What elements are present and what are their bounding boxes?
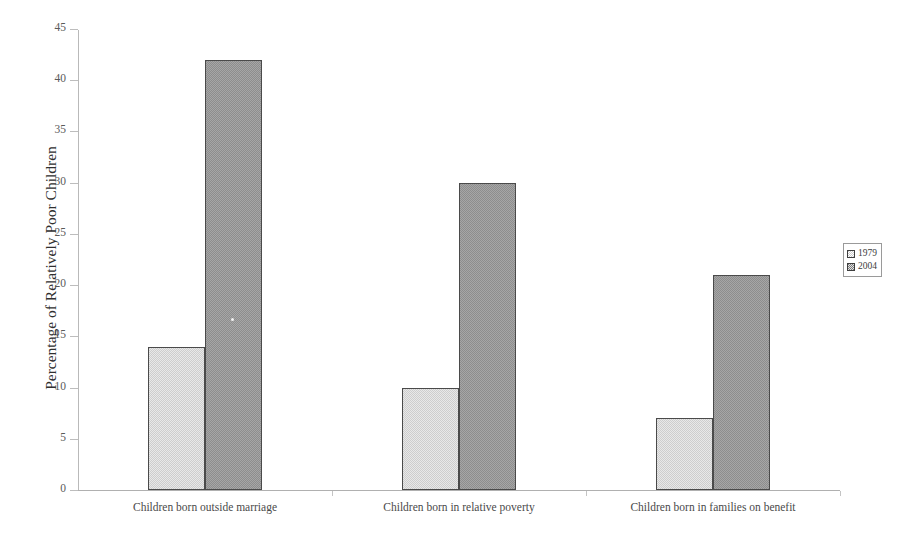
- x-axis-category-label: Children born in families on benefit: [630, 501, 795, 513]
- y-axis-tick: 45: [70, 29, 78, 30]
- y-axis-tick-label: 30: [55, 175, 67, 187]
- legend-item-2004: 2004: [847, 260, 877, 273]
- legend-item-label: 1979: [858, 248, 877, 259]
- bar-1979-3: [656, 418, 713, 490]
- y-axis-tick: 0: [70, 490, 78, 491]
- y-axis-tick-label: 15: [55, 328, 67, 340]
- y-axis-tick: 25: [70, 234, 78, 235]
- x-axis-category-label: Children born outside marriage: [133, 501, 277, 513]
- y-axis-tick: 5: [70, 439, 78, 440]
- y-axis-tick: 35: [70, 131, 78, 132]
- y-axis-tick: 20: [70, 285, 78, 286]
- y-axis-tick-label: 25: [55, 226, 67, 238]
- bar-1979-1: [148, 347, 205, 490]
- y-axis-tick-label: 5: [60, 431, 66, 443]
- y-axis-tick-label: 40: [55, 72, 67, 84]
- x-axis-line: [78, 490, 840, 491]
- x-axis-category-label: Children born in relative poverty: [383, 501, 534, 513]
- bar-2004-1: [205, 60, 262, 490]
- chart-title-cropped: [0, 0, 917, 11]
- legend-item-label: 2004: [858, 261, 877, 272]
- y-axis-tick-label: 20: [55, 277, 67, 289]
- legend-swatch-2004: [847, 263, 855, 271]
- y-axis-tick: 30: [70, 183, 78, 184]
- y-axis-tick: 40: [70, 80, 78, 81]
- y-axis-line: [78, 30, 79, 491]
- legend-item-1979: 1979: [847, 247, 877, 260]
- y-axis-tick-label: 35: [55, 123, 67, 135]
- y-axis-tick-label: 0: [60, 482, 66, 494]
- y-axis-tick: 15: [70, 336, 78, 337]
- bar-2004-2: [459, 183, 516, 490]
- x-axis-tick: [586, 491, 587, 496]
- chart-legend: 19792004: [843, 243, 882, 277]
- bar-2004-3: [713, 275, 770, 490]
- bar-1979-2: [402, 388, 459, 490]
- plot-area: 051015202530354045: [78, 30, 840, 491]
- y-axis-tick-label: 45: [55, 21, 67, 33]
- y-axis-tick: 10: [70, 388, 78, 389]
- y-axis-tick-label: 10: [55, 380, 67, 392]
- x-axis-tick: [840, 491, 841, 496]
- legend-swatch-1979: [847, 250, 855, 258]
- x-axis-tick: [332, 491, 333, 496]
- scan-artifact-speck: [231, 318, 234, 321]
